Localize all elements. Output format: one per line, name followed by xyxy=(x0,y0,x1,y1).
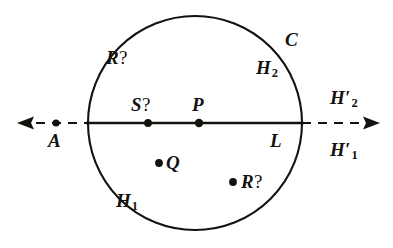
label-H1-prime: H′1 xyxy=(330,140,358,159)
point-Q-dot xyxy=(155,159,163,167)
label-circle-C: C xyxy=(285,30,298,49)
arrowhead-right-icon xyxy=(363,117,380,130)
arrowhead-left-icon xyxy=(17,117,34,130)
point-S-dot xyxy=(144,119,152,127)
label-R-upper-left: R? xyxy=(106,48,128,67)
label-Q: Q xyxy=(166,153,180,172)
label-S: S? xyxy=(131,95,150,114)
label-P: P xyxy=(192,95,204,114)
figure-drawing-surface xyxy=(0,0,393,248)
label-H2-prime: H′2 xyxy=(330,88,358,107)
label-A: A xyxy=(48,131,61,150)
label-H1: H1 xyxy=(116,191,138,210)
label-R-lower-right: R? xyxy=(241,172,263,191)
point-P-dot xyxy=(195,119,203,127)
point-A-dot xyxy=(52,119,59,126)
geometry-figure: R? C H2 S? P H′2 A L H′1 Q R? H1 xyxy=(0,0,393,248)
label-L: L xyxy=(270,131,282,150)
label-H2: H2 xyxy=(256,58,278,77)
point-R-lower-dot xyxy=(229,178,237,186)
